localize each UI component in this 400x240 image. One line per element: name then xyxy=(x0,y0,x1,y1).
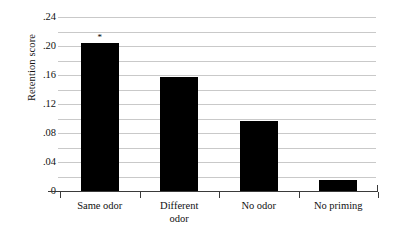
x-axis-label: Same odor xyxy=(77,200,122,213)
x-axis-tick xyxy=(378,192,379,198)
y-axis-tick-label: .20 xyxy=(43,41,56,52)
bar[interactable] xyxy=(319,180,357,191)
plot-area: * xyxy=(58,10,376,191)
x-axis-end-tick xyxy=(377,185,378,192)
y-axis-tick-labels: 0.04.08.12.16.20.24 xyxy=(30,10,56,191)
bar[interactable] xyxy=(240,121,278,191)
bar-chart-figure: Retention score 0.04.08.12.16.20.24 * Sa… xyxy=(0,0,400,240)
gridline-major xyxy=(58,17,376,18)
bar[interactable] xyxy=(160,77,198,191)
y-axis-tick-label: .16 xyxy=(43,70,56,81)
x-axis-label: No priming xyxy=(314,200,363,213)
x-axis-line xyxy=(48,191,378,192)
x-axis-tick xyxy=(140,192,141,198)
y-axis-tick-label: .04 xyxy=(43,157,56,168)
bar[interactable] xyxy=(81,43,119,191)
x-axis-tick xyxy=(219,192,220,198)
significance-marker: * xyxy=(98,33,103,42)
gridline-minor xyxy=(58,32,376,33)
x-axis-tick xyxy=(60,192,61,198)
y-axis-tick-label: .08 xyxy=(43,128,56,139)
y-axis-tick-label: .24 xyxy=(43,12,56,23)
x-axis-label: Different odor xyxy=(160,200,198,225)
x-axis-tick xyxy=(299,192,300,198)
x-axis-label: No odor xyxy=(241,200,276,213)
y-axis-tick-label: .12 xyxy=(43,99,56,110)
